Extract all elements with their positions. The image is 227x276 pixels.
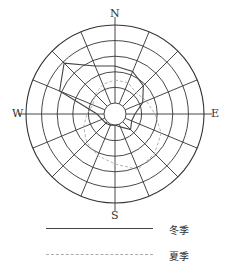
- grid-spoke: [52, 122, 107, 177]
- grid-spoke: [33, 118, 105, 148]
- west-label: W: [12, 108, 23, 119]
- grid-spoke: [33, 80, 105, 110]
- north-label: N: [110, 8, 120, 19]
- grid-spoke: [123, 51, 178, 106]
- legend-winter-label: 冬季: [169, 222, 189, 237]
- legend-summer-label: 夏季: [169, 248, 189, 263]
- calm-circle: [104, 103, 126, 125]
- wind-rose-chart: [0, 0, 227, 276]
- grid-spoke: [119, 124, 149, 196]
- east-label: E: [211, 108, 219, 119]
- south-label: S: [111, 210, 119, 221]
- grid-spoke: [119, 32, 149, 104]
- legend-summer-line: [46, 254, 153, 255]
- grid-spoke: [52, 51, 107, 106]
- legend-winter-line: [46, 228, 153, 229]
- grid-spoke: [125, 80, 197, 110]
